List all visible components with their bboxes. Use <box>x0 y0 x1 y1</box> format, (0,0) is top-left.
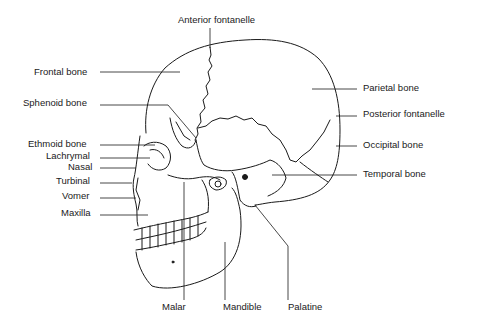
leader-lines <box>100 28 357 300</box>
zygomatic-arch <box>168 175 220 180</box>
label-maxilla: Maxilla <box>61 208 91 218</box>
label-turbinal: Turbinal <box>56 176 90 186</box>
lower-teeth <box>136 228 206 250</box>
orbit <box>144 142 171 170</box>
label-nasal: Nasal <box>68 162 92 172</box>
label-frontal-bone: Frontal bone <box>34 67 87 77</box>
label-parietal-bone: Parietal bone <box>363 83 419 93</box>
cranium-outline <box>146 40 340 205</box>
squamosal-suture <box>198 116 330 162</box>
label-occipital-bone: Occipital bone <box>363 140 423 150</box>
label-anterior-fontanelle: Anterior fontanelle <box>178 15 255 25</box>
temporal-inner <box>196 140 286 196</box>
nasal-edge <box>133 136 140 226</box>
label-lachrymal: Lachrymal <box>46 151 90 161</box>
label-ethmoid-bone: Ethmoid bone <box>28 139 87 149</box>
skull-diagram: Anterior fontanelle Frontal bone Sphenoi… <box>0 0 477 331</box>
label-malar: Malar <box>162 302 186 312</box>
label-temporal-bone: Temporal bone <box>363 169 426 179</box>
label-posterior-fontanelle: Posterior fontanelle <box>363 109 445 119</box>
label-sphenoid-bone: Sphenoid bone <box>23 98 87 108</box>
label-palatine: Palatine <box>288 302 322 312</box>
label-vomer: Vomer <box>62 191 89 201</box>
label-mandible: Mandible <box>223 302 262 312</box>
coronal-suture <box>195 47 212 140</box>
